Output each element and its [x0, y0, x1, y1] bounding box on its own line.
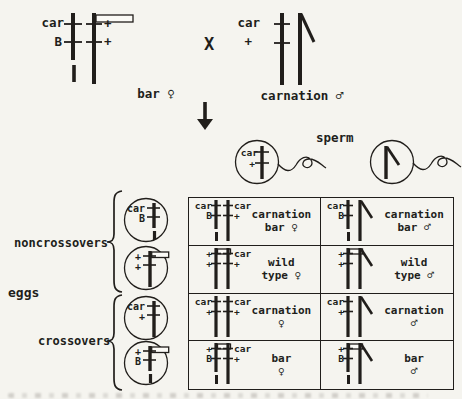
svg-text:+: + — [234, 210, 240, 221]
cross-symbol: X — [204, 34, 214, 54]
punnett-square: carBcar+ carnationbar ♀ carB carnationba… — [188, 197, 454, 390]
punnett-cell-r2c1: ++car+ wildtype ♀ — [189, 246, 321, 294]
egg-cell-2: ++ — [125, 247, 169, 290]
phenotype-line2: ♂ — [376, 317, 451, 330]
phenotype-line2: bar ♀ — [244, 221, 319, 234]
phenotype-line1: bar — [244, 352, 319, 365]
sperm-cell-y — [371, 141, 462, 184]
phenotype-line1: carnation — [376, 208, 451, 221]
svg-text:+: + — [234, 306, 240, 317]
svg-text:+: + — [104, 34, 112, 49]
phenotype-line1: carnation — [244, 304, 319, 317]
svg-text:+: + — [135, 261, 141, 272]
phenotype-line1: bar — [376, 352, 451, 365]
punnett-cell-r4c2: +B bar♂ — [321, 341, 453, 389]
punnett-cell-r3c1: car+car+ carnation♀ — [189, 294, 321, 342]
clipped-caption-fragment — [8, 393, 428, 398]
svg-text:B: B — [135, 356, 141, 367]
male-parent-chromosomes: car+ — [237, 13, 314, 85]
svg-text:car: car — [41, 15, 64, 30]
phenotype-line2: ♂ — [376, 365, 451, 378]
svg-text:+: + — [139, 311, 145, 322]
noncrossovers-label: noncrossovers — [14, 236, 108, 250]
noncrossovers-brace — [107, 191, 122, 292]
svg-text:+: + — [249, 158, 255, 169]
punnett-cell-r4c1: +Bcar+ bar♀ — [189, 341, 321, 389]
egg-cell-1: carB — [125, 199, 168, 242]
svg-text:+: + — [234, 353, 240, 364]
phenotype-line1: carnation — [244, 208, 319, 221]
phenotype-line2: ♀ — [244, 317, 319, 330]
crossovers-label: crossovers — [38, 334, 108, 348]
eggs-label: eggs — [8, 285, 39, 300]
svg-text:+: + — [234, 258, 240, 269]
phenotype-line2: type ♂ — [376, 269, 451, 282]
down-arrow-icon — [197, 102, 213, 130]
punnett-cell-r1c1: carBcar+ carnationbar ♀ — [189, 198, 321, 246]
female-parent-label: bar ♀ — [120, 86, 192, 101]
svg-text:car: car — [237, 15, 260, 30]
phenotype-line1: wild — [376, 256, 451, 269]
svg-text:B: B — [54, 34, 62, 49]
punnett-cell-r1c2: carB carnationbar ♂ — [321, 198, 453, 246]
svg-text:car: car — [241, 147, 258, 158]
male-parent-label: carnation ♂ — [252, 88, 352, 103]
female-parent-chromosomes: carB++ — [41, 13, 133, 84]
egg-cell-3: car+ — [125, 297, 168, 340]
genetics-cross-figure: carB++car+car+carB++car++B X bar ♀ carna… — [0, 0, 462, 399]
phenotype-line1: wild — [244, 256, 319, 269]
svg-text:+: + — [244, 34, 252, 49]
svg-text:B: B — [139, 213, 145, 224]
punnett-cell-r3c2: car+ carnation♂ — [321, 294, 453, 342]
punnett-cell-r2c2: ++ wildtype ♂ — [321, 246, 453, 294]
sperm-cell-x: car+ — [236, 141, 327, 184]
sperm-label: sperm — [316, 130, 354, 145]
svg-text:+: + — [104, 16, 112, 31]
egg-cell-4: +B — [125, 342, 169, 385]
phenotype-line2: bar ♂ — [376, 221, 451, 234]
phenotype-line2: type ♀ — [244, 269, 319, 282]
phenotype-line2: ♀ — [244, 365, 319, 378]
phenotype-line1: carnation — [376, 304, 451, 317]
